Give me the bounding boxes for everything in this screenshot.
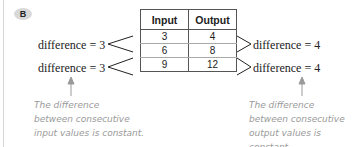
left-note-line: input values is constant. (34, 126, 144, 140)
right-bracket-icon (237, 36, 251, 75)
left-note-line: between consecutive (34, 112, 144, 126)
left-note-line: The difference (34, 98, 144, 112)
up-arrow-icon (68, 77, 305, 96)
right-note-line: The difference (249, 98, 345, 112)
left-note: The difference between consecutive input… (34, 98, 144, 140)
right-note-line: output values is (249, 126, 345, 140)
right-note: The difference between consecutive outpu… (249, 98, 345, 147)
right-note-line: constant. (249, 140, 345, 147)
left-bracket-icon (108, 36, 133, 75)
right-note-line: between consecutive (249, 112, 345, 126)
